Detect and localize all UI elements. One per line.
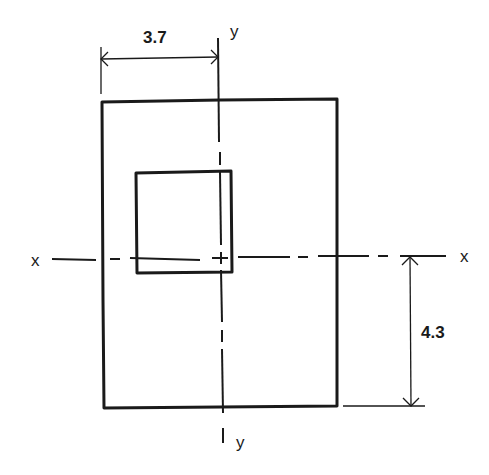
dimension-label-vertical: 4.3 <box>421 323 445 342</box>
y-axis-label-top: y <box>230 22 239 41</box>
dimension-vertical <box>343 257 425 406</box>
dimension-horizontal <box>101 47 218 94</box>
section-diagram: 3.7 4.3 x x y y <box>0 0 489 475</box>
x-axis-label-right: x <box>460 247 469 266</box>
dimension-label-horizontal: 3.7 <box>143 28 167 47</box>
x-axis-label-left: x <box>31 251 40 270</box>
x-axis-line <box>52 256 446 260</box>
y-axis-label-bottom: y <box>236 433 245 452</box>
